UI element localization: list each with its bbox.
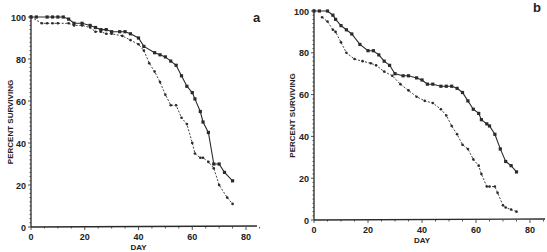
data-point — [318, 9, 321, 12]
data-point — [201, 120, 204, 123]
data-point — [488, 124, 491, 127]
data-point — [193, 97, 196, 100]
data-point — [502, 204, 505, 207]
data-point — [472, 108, 475, 111]
x-tick-label: 20 — [363, 225, 373, 235]
x-tick-label: 40 — [417, 225, 427, 235]
data-point — [218, 184, 221, 187]
data-point — [407, 74, 410, 77]
data-point — [212, 162, 215, 165]
data-point — [366, 49, 369, 52]
data-point — [137, 43, 140, 46]
data-point — [175, 64, 178, 67]
data-point — [504, 206, 507, 209]
data-point — [57, 22, 60, 25]
x-tick-label: 40 — [133, 232, 143, 242]
data-point — [180, 74, 183, 77]
data-point — [89, 26, 92, 29]
data-point — [332, 29, 335, 32]
data-point — [423, 100, 426, 103]
data-point — [331, 14, 334, 17]
x-tick-label: 60 — [187, 232, 197, 242]
data-point — [129, 39, 132, 42]
data-point — [445, 114, 448, 117]
data-point — [153, 70, 156, 73]
data-point — [105, 28, 108, 31]
data-point — [407, 89, 410, 92]
data-point — [199, 156, 202, 159]
y-tick-label: 40 — [299, 132, 309, 142]
x-tick-label: 20 — [80, 232, 90, 242]
data-point — [186, 123, 189, 126]
data-point — [456, 87, 459, 90]
series-solid-line — [31, 17, 233, 181]
data-point — [30, 16, 33, 19]
data-point — [350, 32, 353, 35]
data-point — [393, 72, 396, 75]
data-point — [496, 192, 499, 195]
x-tick-label: 0 — [28, 232, 33, 242]
data-point — [369, 62, 372, 65]
data-point — [326, 9, 329, 12]
x-axis-label: DAY — [130, 243, 147, 252]
y-tick-label: 0 — [304, 216, 309, 226]
data-point — [94, 30, 97, 33]
data-point — [153, 51, 156, 54]
data-point — [223, 171, 226, 174]
y-tick-label: 0 — [21, 223, 26, 233]
data-point — [450, 85, 453, 88]
data-point — [175, 104, 178, 107]
y-tick-label: 100 — [294, 7, 309, 17]
x-tick-label: 80 — [241, 232, 251, 242]
data-point — [493, 133, 496, 136]
x-axis-label: DAY — [414, 236, 431, 245]
data-point — [515, 210, 518, 213]
data-point — [480, 173, 483, 176]
data-point — [353, 58, 356, 61]
data-point — [105, 33, 108, 36]
y-axis-label: PERCENT SURVIVING — [288, 73, 297, 157]
data-point — [121, 35, 124, 38]
data-point — [480, 118, 483, 121]
data-point — [510, 208, 513, 211]
data-point — [207, 161, 210, 164]
data-point — [345, 28, 348, 31]
data-point — [51, 15, 54, 18]
data-point — [504, 160, 507, 163]
data-point — [212, 167, 215, 170]
data-point — [415, 95, 418, 98]
data-point — [123, 30, 126, 33]
data-point — [358, 43, 361, 46]
data-point — [515, 170, 518, 173]
x-tick-label: 60 — [471, 225, 481, 235]
data-point — [461, 91, 464, 94]
data-point — [231, 179, 234, 182]
data-point — [345, 52, 348, 55]
data-point — [440, 108, 443, 111]
data-point — [142, 45, 145, 48]
data-point — [399, 83, 402, 86]
data-point — [499, 147, 502, 150]
data-point — [143, 49, 146, 52]
data-point — [321, 16, 324, 19]
data-point — [472, 158, 475, 161]
data-point — [361, 60, 364, 63]
y-tick-label: 20 — [16, 181, 26, 191]
data-point — [339, 24, 342, 27]
series-solid-line — [314, 11, 517, 172]
data-point — [467, 148, 470, 151]
data-point — [169, 104, 172, 107]
data-point — [488, 185, 491, 188]
data-point — [450, 125, 453, 128]
data-point — [494, 185, 497, 188]
data-point — [432, 102, 435, 105]
data-point — [94, 26, 97, 29]
data-point — [73, 24, 76, 27]
data-point — [191, 142, 194, 145]
data-point — [420, 78, 423, 81]
data-point — [169, 60, 172, 63]
data-point — [56, 15, 59, 18]
data-point — [377, 53, 380, 56]
data-point — [67, 18, 70, 21]
y-tick-label: 100 — [11, 13, 26, 23]
